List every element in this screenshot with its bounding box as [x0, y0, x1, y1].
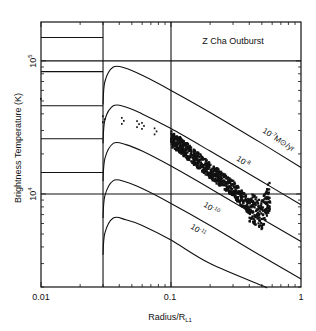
- model-curve: [103, 105, 301, 205]
- chart-svg: Z Cha Outburst 0.01 0.1 1 Radius/RL1 105…: [0, 0, 316, 331]
- observation-points: [40, 98, 271, 230]
- y-tick-labels: 105 104: [27, 54, 38, 201]
- curve-label-1e-7: 10-7M⊙/yr: [261, 125, 297, 153]
- chart-title: Z Cha Outburst: [202, 36, 264, 46]
- curve-label-1e-10: 10-10: [202, 199, 222, 217]
- model-curve: [103, 217, 267, 288]
- model-curves: [103, 66, 301, 288]
- y-tick-label-1e4: 104: [27, 187, 38, 201]
- x-tick-labels: 0.01 0.1 1: [32, 292, 303, 302]
- model-curve: [103, 66, 301, 167]
- reference-lines: [41, 22, 301, 287]
- y-axis-label: Brightness Temperature (K): [13, 93, 23, 203]
- curve-label-1e-11: 10-11: [189, 221, 208, 238]
- x-axis-label: Radius/RL1: [148, 312, 192, 323]
- x-tick-label: 1: [298, 292, 303, 302]
- x-tick-label: 0.1: [164, 292, 177, 302]
- curve-labels: 10-7M⊙/yr 10-8 10-10 10-11: [189, 125, 297, 238]
- x-tick-label: 0.01: [32, 292, 50, 302]
- y-tick-label-1e5: 105: [27, 54, 38, 68]
